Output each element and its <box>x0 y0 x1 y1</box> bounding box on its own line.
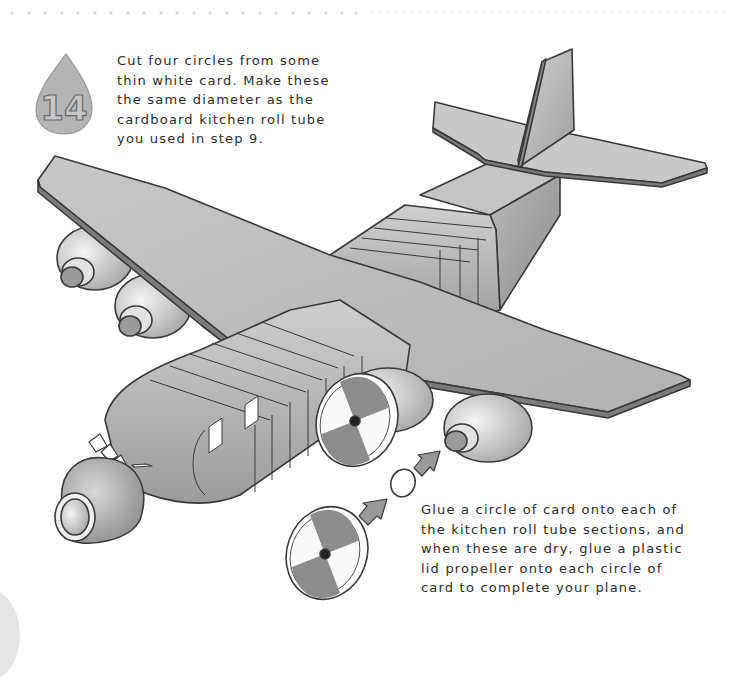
arrow-icon <box>359 499 387 525</box>
nose-cone <box>55 458 144 543</box>
step-instruction: Cut four circles from some thin white ca… <box>117 51 357 149</box>
step-number-badge: 14 <box>32 52 96 136</box>
step-number: 14 <box>40 88 87 128</box>
arrow-icon <box>414 451 440 476</box>
card-circle <box>387 466 419 501</box>
final-instruction: Glue a circle of card onto each of the k… <box>421 500 721 598</box>
engine-4 <box>444 394 532 462</box>
